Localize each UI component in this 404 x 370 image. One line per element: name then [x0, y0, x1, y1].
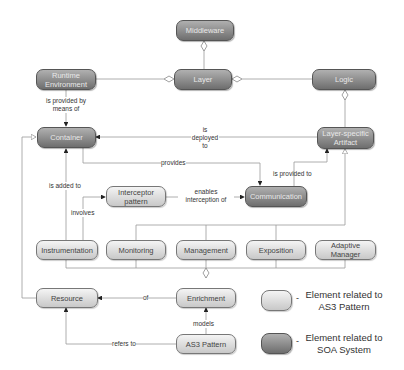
node-logic: Logic [312, 69, 376, 90]
legend-swatch-soa [261, 333, 292, 354]
node-layer: Layer [174, 69, 232, 90]
edge-label-refers-to: refers to [112, 340, 136, 348]
node-runtime-environment: Runtime Environment [36, 69, 96, 90]
edge-label-of: of [143, 294, 148, 302]
edge-label-enables-interception-of: enables interception of [178, 188, 234, 204]
legend-label-soa: Element related to SOA System [299, 332, 389, 356]
node-adaptive-manager: Adaptive Manager [315, 240, 376, 260]
edge-label-is-added-to: is added to [49, 182, 81, 190]
edge-label-is-provided-to: is provided to [273, 170, 312, 178]
edge-label-is-provided-by-means-of: is provided by means of [44, 97, 88, 113]
node-management: Management [176, 240, 236, 260]
node-interceptor-pattern: Interceptor pattern [106, 186, 166, 207]
aggregation-diamond [164, 76, 174, 82]
edge-label-involves: involves [71, 209, 94, 217]
legend-label-as3: Element related to AS3 Pattern [299, 289, 389, 313]
node-container: Container [37, 127, 96, 148]
node-resource: Resource [36, 288, 98, 308]
aggregation-diamond [232, 76, 242, 82]
node-exposition: Exposition [246, 240, 306, 260]
aggregation-diamond [342, 90, 348, 100]
node-monitoring: Monitoring [106, 240, 166, 260]
edge-label-is-deployed-to: is deployed to [191, 126, 219, 150]
node-layer-specific-artifact: Layer-specific Artifact [317, 127, 374, 149]
node-instrumentation: Instrumentation [36, 240, 98, 260]
node-communication: Communication [245, 186, 307, 207]
node-as3-pattern: AS3 Pattern [176, 334, 236, 354]
aggregation-diamond [201, 41, 207, 51]
node-enrichment: Enrichment [176, 288, 236, 308]
edge-label-provides: provides [161, 159, 186, 167]
aggregation-diamond [203, 268, 209, 278]
node-middleware: Middleware [176, 20, 234, 41]
edge-label-models: models [193, 320, 214, 328]
legend-swatch-as3 [261, 290, 292, 311]
